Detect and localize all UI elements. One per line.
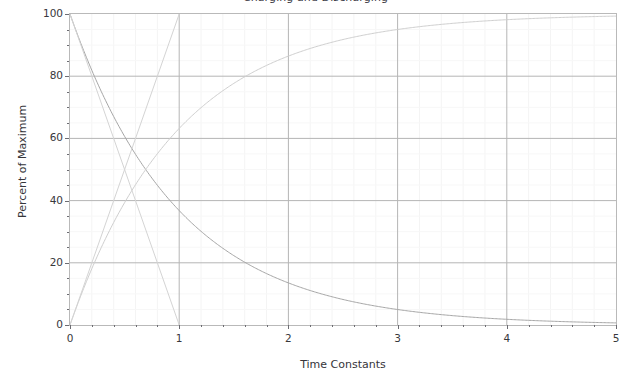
y-tick-minor	[67, 170, 69, 171]
x-tick-minor	[332, 325, 333, 327]
y-tick-minor	[67, 154, 69, 155]
x-tick-major	[288, 325, 289, 329]
y-tick-label: 100	[27, 7, 63, 19]
plot-svg	[70, 14, 616, 325]
x-tick-minor	[92, 325, 93, 327]
x-tick-label: 4	[492, 332, 522, 344]
y-tick-minor	[67, 309, 69, 310]
x-tick-minor	[572, 325, 573, 327]
y-tick-major	[65, 14, 69, 15]
x-tick-major	[616, 325, 617, 329]
y-tick-label: 0	[27, 318, 63, 330]
x-tick-minor	[201, 325, 202, 327]
y-tick-minor	[67, 30, 69, 31]
y-tick-minor	[67, 185, 69, 186]
x-tick-minor	[376, 325, 377, 327]
x-tick-label: 5	[601, 332, 631, 344]
x-tick-major	[507, 325, 508, 329]
x-tick-minor	[529, 325, 530, 327]
x-tick-label: 2	[273, 332, 303, 344]
x-tick-minor	[245, 325, 246, 327]
y-tick-major	[65, 138, 69, 139]
x-tick-label: 3	[383, 332, 413, 344]
y-tick-minor	[67, 107, 69, 108]
x-tick-minor	[157, 325, 158, 327]
x-tick-minor	[419, 325, 420, 327]
y-tick-label: 20	[27, 256, 63, 268]
chart-figure: Charging and Discharging Percent of Maxi…	[0, 0, 631, 391]
y-tick-minor	[67, 278, 69, 279]
x-tick-minor	[551, 325, 552, 327]
y-tick-major	[65, 325, 69, 326]
x-tick-minor	[223, 325, 224, 327]
y-tick-major	[65, 76, 69, 77]
y-tick-minor	[67, 123, 69, 124]
x-tick-minor	[594, 325, 595, 327]
x-tick-major	[70, 325, 71, 329]
chart-title: Charging and Discharging	[0, 0, 631, 4]
x-tick-major	[179, 325, 180, 329]
plot-area	[69, 13, 617, 326]
y-tick-minor	[67, 61, 69, 62]
x-tick-minor	[114, 325, 115, 327]
x-tick-label: 0	[55, 332, 85, 344]
x-tick-minor	[463, 325, 464, 327]
x-tick-minor	[310, 325, 311, 327]
y-tick-minor	[67, 247, 69, 248]
x-axis-title: Time Constants	[69, 358, 617, 371]
x-tick-label: 1	[164, 332, 194, 344]
y-tick-major	[65, 201, 69, 202]
y-tick-minor	[67, 294, 69, 295]
y-tick-label: 60	[27, 131, 63, 143]
y-tick-major	[65, 263, 69, 264]
y-tick-minor	[67, 92, 69, 93]
x-tick-minor	[267, 325, 268, 327]
y-tick-minor	[67, 232, 69, 233]
x-tick-minor	[354, 325, 355, 327]
x-tick-major	[398, 325, 399, 329]
y-axis-title: Percent of Maximum	[16, 72, 29, 252]
y-tick-minor	[67, 45, 69, 46]
x-tick-minor	[136, 325, 137, 327]
y-tick-label: 40	[27, 194, 63, 206]
y-tick-label: 80	[27, 69, 63, 81]
y-tick-minor	[67, 216, 69, 217]
x-tick-minor	[441, 325, 442, 327]
x-tick-minor	[485, 325, 486, 327]
